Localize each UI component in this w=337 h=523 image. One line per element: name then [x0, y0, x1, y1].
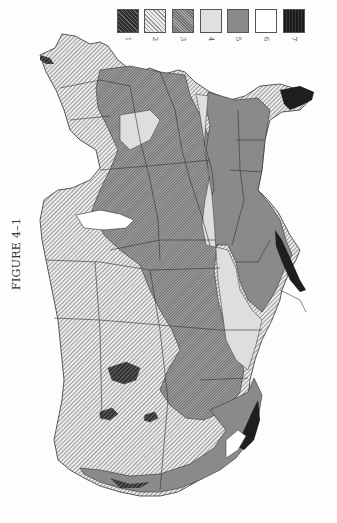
- us-zone-map: [0, 0, 337, 523]
- document-page: FIGURE 4–1 1 2 3 4 5 6 7: [0, 0, 337, 523]
